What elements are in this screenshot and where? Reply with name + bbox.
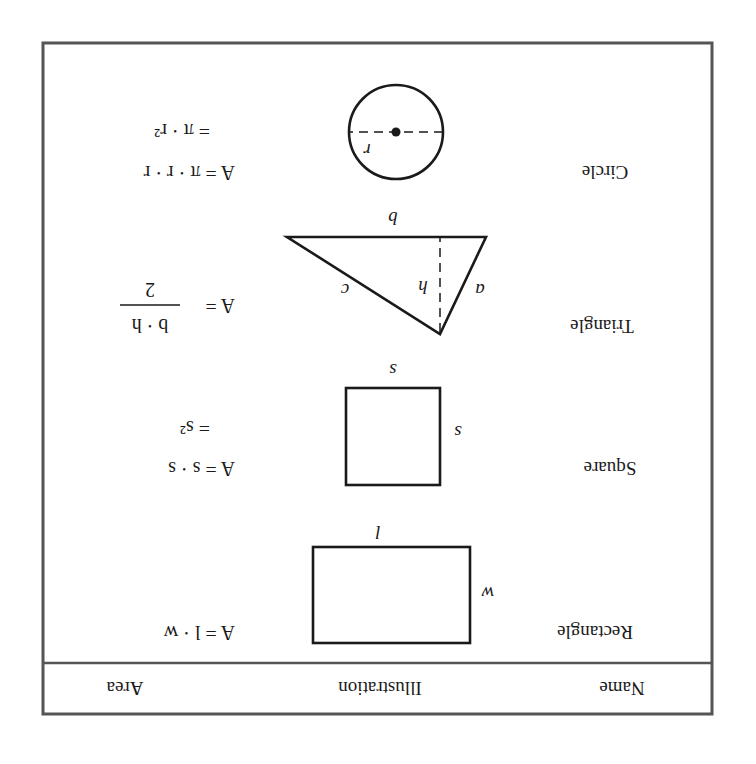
rectangle-shape [313, 547, 470, 643]
triangle-base-label: b [388, 208, 398, 229]
rectangle-width-label: w [481, 583, 494, 604]
square-formula-line2: = s² [180, 417, 210, 439]
area-formulas-table: Name Illustration Area Rectangle l w A =… [0, 0, 756, 764]
table-frame [43, 43, 712, 714]
square-top-label: s [389, 360, 396, 381]
triangle-side-a-label: a [475, 280, 485, 301]
rectangle-formula: A = l · w [163, 622, 235, 644]
triangle-formula-prefix: A = [205, 295, 235, 317]
triangle-height-label: h [418, 277, 428, 298]
circle-formula-line2: = π · r² [154, 120, 210, 142]
square-side-label: s [454, 422, 461, 443]
triangle-formula-numerator: b · h [132, 315, 169, 337]
table-row-circle: Circle r A = π · r · r = π · r² [143, 85, 628, 184]
triangle-formula-denominator: 2 [145, 279, 155, 301]
header-illustration: Illustration [338, 678, 422, 699]
triangle-side-c-label: c [340, 280, 349, 301]
header-area: Area [106, 678, 143, 699]
circle-center-dot [392, 128, 401, 137]
area-formulas-page: Name Illustration Area Rectangle l w A =… [0, 0, 756, 764]
square-shape [346, 388, 440, 485]
table-row-square: Square s s A = s · s = s² [168, 360, 636, 485]
row-name: Square [584, 458, 637, 479]
triangle-shape [287, 237, 486, 334]
circle-formula-line1: A = π · r · r [143, 162, 235, 184]
row-name: Triangle [570, 316, 634, 337]
circle-radius-label: r [363, 140, 371, 161]
row-name: Rectangle [557, 622, 633, 643]
square-formula-line1: A = s · s [168, 458, 235, 480]
table-row-triangle: Triangle b a c h A = b · h 2 [120, 208, 634, 337]
header-name: Name [599, 678, 644, 699]
rectangle-length-label: l [375, 522, 380, 543]
table-row-rectangle: Rectangle l w A = l · w [163, 522, 633, 644]
row-name: Circle [582, 162, 628, 183]
